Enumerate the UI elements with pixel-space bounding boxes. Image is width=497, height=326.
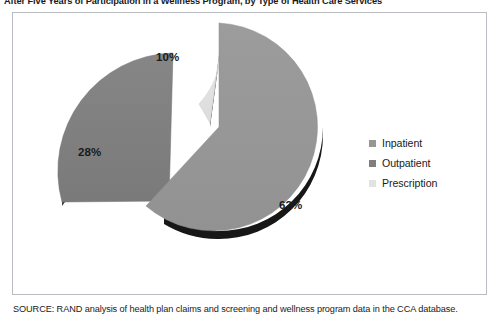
pie-slice-outpatient-face — [58, 53, 173, 202]
pie-label-prescription: 10% — [156, 51, 179, 63]
chart-legend: Inpatient Outpatient Prescription — [369, 133, 481, 193]
legend-label-inpatient: Inpatient — [382, 137, 422, 149]
chart-title-strip: After Five Years of Participation in a W… — [0, 0, 497, 9]
chart-frame: 10% 28% 62% Inpatient Outpatient Prescri… — [12, 12, 487, 295]
legend-item-outpatient[interactable]: Outpatient — [369, 153, 481, 173]
pie-slice-outpatient[interactable] — [58, 53, 173, 206]
pie-label-inpatient: 62% — [279, 199, 302, 211]
legend-swatch-prescription — [369, 180, 376, 187]
legend-item-inpatient[interactable]: Inpatient — [369, 133, 481, 153]
legend-swatch-inpatient — [369, 140, 376, 147]
pie-slice-prescription[interactable] — [199, 41, 221, 127]
legend-item-prescription[interactable]: Prescription — [369, 173, 481, 193]
source-note: SOURCE: RAND analysis of health plan cla… — [13, 303, 493, 316]
legend-label-prescription: Prescription — [382, 177, 437, 189]
legend-swatch-outpatient — [369, 160, 376, 167]
legend-label-outpatient: Outpatient — [382, 157, 430, 169]
pie-slice-prescription-face — [199, 41, 221, 123]
pie-chart-plot-area: 10% 28% 62% Inpatient Outpatient Prescri… — [13, 13, 488, 296]
page-title: After Five Years of Participation in a W… — [4, 0, 497, 7]
pie-label-outpatient: 28% — [78, 146, 101, 158]
